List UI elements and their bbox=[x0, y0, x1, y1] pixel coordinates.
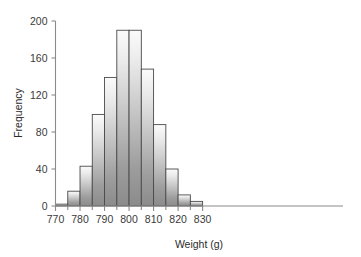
histogram-bar bbox=[117, 30, 129, 206]
histogram-bar bbox=[154, 125, 166, 206]
x-tick-label: 780 bbox=[71, 213, 89, 225]
histogram-bar bbox=[166, 169, 178, 206]
histogram-bar bbox=[80, 166, 92, 206]
x-tick-label: 820 bbox=[169, 213, 187, 225]
histogram-bar bbox=[190, 201, 202, 206]
x-tick-label: 800 bbox=[120, 213, 138, 225]
x-tick-label: 830 bbox=[194, 213, 212, 225]
x-tick-label: 790 bbox=[96, 213, 114, 225]
y-axis-title: Frequency bbox=[12, 87, 24, 137]
x-axis-title: Weight (g) bbox=[175, 238, 223, 250]
y-tick-label: 40 bbox=[36, 163, 48, 175]
histogram-bar bbox=[68, 191, 80, 206]
y-tick-label: 0 bbox=[42, 200, 48, 212]
histogram-figure: 04080120160200 770780790800810820830 Wei… bbox=[0, 0, 361, 257]
histogram-bar bbox=[141, 69, 153, 206]
y-tick-label: 200 bbox=[30, 15, 48, 27]
histogram-bar bbox=[105, 77, 117, 206]
y-tick-label: 80 bbox=[36, 126, 48, 138]
chart-canvas: 04080120160200 770780790800810820830 Wei… bbox=[0, 0, 361, 257]
y-tick-label: 160 bbox=[30, 52, 48, 64]
histogram-bar bbox=[129, 30, 141, 206]
x-tick-label: 810 bbox=[145, 213, 163, 225]
histogram-bar bbox=[92, 114, 104, 206]
x-tick-label: 770 bbox=[47, 213, 65, 225]
y-tick-label: 120 bbox=[30, 89, 48, 101]
histogram-bar bbox=[178, 195, 190, 206]
